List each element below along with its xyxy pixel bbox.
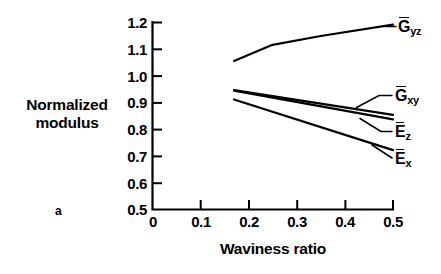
- series-label-g-yz-subscript: yz: [410, 25, 421, 37]
- x-tick-label-0.4: 0.4: [325, 213, 365, 230]
- y-tick-label-0.8: 0.8: [107, 121, 147, 138]
- y-axis-ticks: [153, 23, 163, 184]
- y-tick-label-1.2: 1.2: [107, 14, 147, 31]
- axis-spines: [153, 22, 394, 210]
- x-tick-label-0.3: 0.3: [277, 213, 317, 230]
- x-tick-label-0.5: 0.5: [373, 213, 413, 230]
- overbar-icon: [399, 17, 410, 19]
- overbar-icon: [396, 122, 405, 124]
- y-tick-label-1.0: 1.0: [107, 68, 147, 85]
- series-label-e-z-base: E: [395, 123, 405, 140]
- x-tick-label-0.1: 0.1: [181, 213, 221, 230]
- series-label-e-x-subscript: x: [405, 157, 411, 169]
- data-curves: [234, 25, 393, 150]
- series-label-e-z-symbol: E: [395, 123, 405, 141]
- series-label-e-x-symbol: E: [395, 150, 405, 168]
- series-label-g-xy-symbol: G: [395, 87, 407, 105]
- curve-e-z: [234, 91, 393, 120]
- figure-container: Normalized modulus a Waviness ratio 1.2 …: [0, 0, 441, 274]
- overbar-icon: [396, 86, 407, 88]
- axis-spine-path: [153, 22, 394, 210]
- y-tick-label-1.1: 1.1: [107, 41, 147, 58]
- curve-g-xy: [234, 90, 393, 115]
- label-leader-lines: [357, 27, 397, 159]
- series-label-e-x-base: E: [395, 150, 405, 167]
- series-label-e-x: Ex: [395, 150, 411, 169]
- series-label-g-yz: Gyz: [398, 18, 421, 37]
- series-label-g-yz-base: G: [398, 18, 410, 35]
- leader-g-xy: [357, 96, 393, 108]
- series-label-g-xy-base: G: [395, 87, 407, 104]
- y-tick-label-0.6: 0.6: [107, 175, 147, 192]
- series-label-g-xy-subscript: xy: [407, 94, 419, 106]
- series-label-g-yz-symbol: G: [398, 18, 410, 36]
- panel-letter: a: [55, 204, 62, 218]
- chart-canvas: [0, 0, 441, 274]
- leader-e-z: [360, 119, 392, 132]
- y-tick-label-0.9: 0.9: [107, 94, 147, 111]
- series-label-e-z-subscript: z: [405, 130, 410, 142]
- x-tick-label-0: 0: [133, 213, 173, 230]
- series-label-g-xy: Gxy: [395, 87, 419, 106]
- x-axis-ticks: [201, 200, 393, 210]
- series-label-e-z: Ez: [395, 123, 411, 142]
- x-axis-title: Waviness ratio: [152, 240, 394, 258]
- x-tick-label-0.2: 0.2: [229, 213, 269, 230]
- curve-g-yz: [234, 25, 393, 61]
- overbar-icon: [396, 149, 405, 151]
- y-tick-label-0.7: 0.7: [107, 148, 147, 165]
